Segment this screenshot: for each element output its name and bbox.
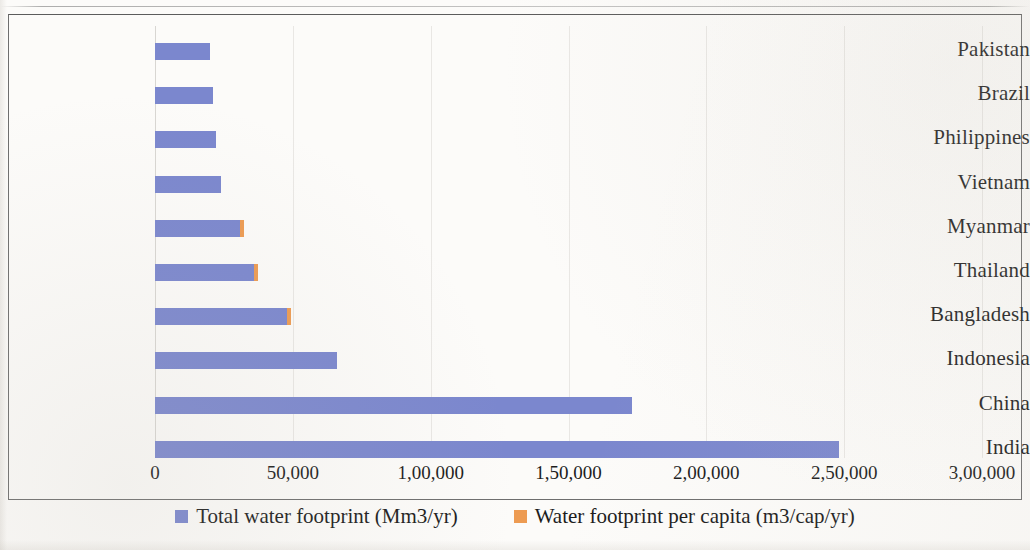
bar-segment-total-water-footprint: [155, 220, 240, 237]
bar-row: [155, 220, 982, 237]
bar-segment-total-water-footprint: [155, 441, 839, 458]
bar-segment-total-water-footprint: [155, 43, 210, 60]
chart-figure: PakistanBrazilPhilippinesVietnamMyanmarT…: [0, 0, 1030, 550]
bar-segment-water-footprint-per-capita: [287, 308, 290, 325]
bar-segment-total-water-footprint: [155, 264, 254, 281]
x-axis-tick-label: 50,000: [267, 462, 319, 484]
bar-row: [155, 43, 982, 60]
legend-label: Total water footprint (Mm3/yr): [196, 506, 458, 527]
legend-item[interactable]: Water footprint per capita (m3/cap/yr): [514, 506, 855, 527]
bar-segment-water-footprint-per-capita: [240, 220, 244, 237]
bar-row: [155, 397, 982, 414]
bar-row: [155, 131, 982, 148]
bar-segment-total-water-footprint: [155, 397, 632, 414]
legend-swatch-icon: [175, 510, 188, 523]
x-axis-tick-label: 0: [150, 462, 160, 484]
legend-label: Water footprint per capita (m3/cap/yr): [535, 506, 855, 527]
bar-segment-total-water-footprint: [155, 308, 287, 325]
bar-row: [155, 264, 982, 281]
bar-chart-plot-area: PakistanBrazilPhilippinesVietnamMyanmarT…: [0, 0, 1030, 550]
legend-item[interactable]: Total water footprint (Mm3/yr): [175, 506, 458, 527]
x-axis-tick-label: 2,50,000: [811, 462, 878, 484]
bar-segment-total-water-footprint: [155, 352, 337, 369]
bar-segment-total-water-footprint: [155, 131, 216, 148]
scan-bottom-shadow: [0, 540, 1030, 550]
x-axis-tick-label: 3,00,000: [949, 462, 1016, 484]
bar-row: [155, 87, 982, 104]
x-axis-tick-label: 1,00,000: [397, 462, 464, 484]
bar-row: [155, 176, 982, 193]
bar-row: [155, 352, 982, 369]
bar-row: [155, 441, 982, 458]
bar-segment-water-footprint-per-capita: [254, 264, 258, 281]
bar-segment-total-water-footprint: [155, 176, 221, 193]
legend-swatch-icon: [514, 510, 527, 523]
x-axis-tick-label: 1,50,000: [535, 462, 602, 484]
bar-row: [155, 308, 982, 325]
chart-legend: Total water footprint (Mm3/yr)Water foot…: [0, 506, 1030, 527]
x-axis-tick-label: 2,00,000: [673, 462, 740, 484]
bar-segment-total-water-footprint: [155, 87, 213, 104]
